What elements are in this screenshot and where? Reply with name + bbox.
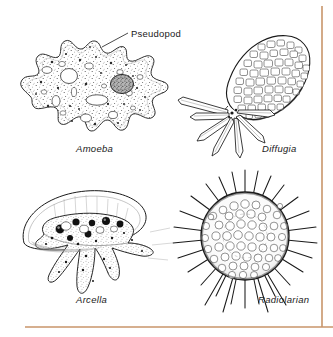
radiolarian-label: Radiolarian — [258, 294, 309, 305]
diffugia-label: Diffugia — [262, 143, 297, 154]
protozoa-plate-svg: Pseudopod Amoeba — [0, 0, 333, 337]
arcella-label: Arcella — [75, 294, 107, 305]
figure-plate: Pseudopod Amoeba — [0, 0, 333, 337]
pseudopod-label: Pseudopod — [131, 28, 181, 39]
amoeba-label: Amoeba — [75, 143, 113, 154]
